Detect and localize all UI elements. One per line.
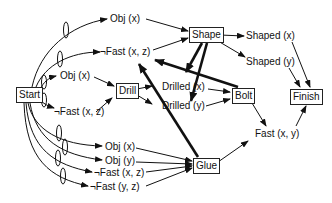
condition-obj-x-top: Obj (x) [110, 13, 140, 25]
condition-not-fast-xz-mid: ¬Fast (x, z) [54, 106, 104, 118]
drill-node: Drill [116, 83, 139, 99]
condition-obj-y-low: Obj (y) [105, 155, 135, 167]
condition-not-fast-xz-low: ¬Fast (x, z) [94, 167, 144, 179]
condition-fast-xy: Fast (x, y) [255, 128, 299, 140]
condition-not-fast-yz-low: ¬Fast (y, z) [90, 181, 140, 193]
condition-obj-x-low: Obj (x) [105, 141, 135, 153]
start-node: Start [16, 87, 43, 103]
finish-node: Finish [290, 89, 323, 105]
glue-node: Glue [193, 158, 220, 174]
condition-not-fast-xz-top: ¬Fast (x, z) [100, 46, 150, 58]
condition-obj-x-mid: Obj (x) [60, 70, 90, 82]
bolt-node: Bolt [232, 88, 255, 104]
shape-node: Shape [189, 27, 224, 43]
condition-drilled-x: Drilled (x) [162, 81, 205, 93]
condition-drilled-y: Drilled (y) [162, 100, 205, 112]
condition-shaped-y: Shaped (y) [246, 56, 295, 68]
condition-shaped-x: Shaped (x) [246, 30, 295, 42]
